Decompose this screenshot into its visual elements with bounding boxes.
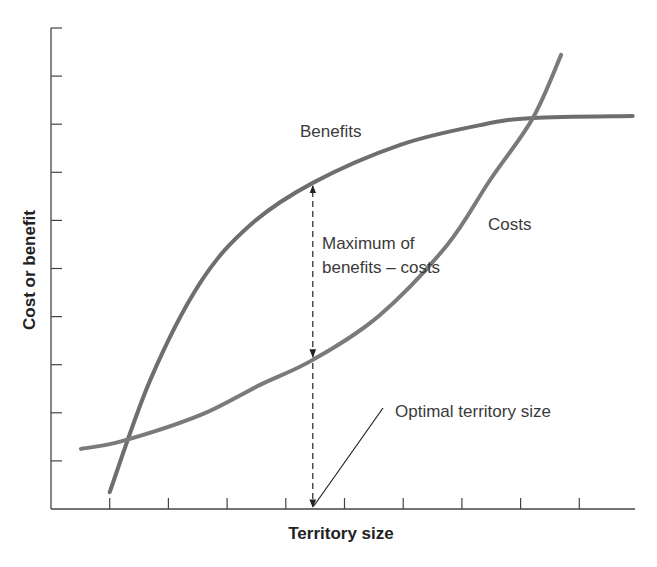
max-diff-label-line2: benefits – costs [322, 258, 440, 277]
x-axis-title: Territory size [288, 524, 394, 543]
optimal-territory-label: Optimal territory size [395, 402, 551, 421]
optimal-pointer-line [314, 408, 383, 506]
max-diff-label-line1: Maximum of [322, 234, 415, 253]
annotations: Benefits Costs Maximum of benefits – cos… [20, 122, 551, 543]
costs-label: Costs [488, 215, 531, 234]
benefits-curve [110, 116, 633, 492]
territory-chart: Benefits Costs Maximum of benefits – cos… [0, 0, 657, 567]
y-axis-title: Cost or benefit [20, 210, 39, 330]
benefits-label: Benefits [300, 122, 361, 141]
